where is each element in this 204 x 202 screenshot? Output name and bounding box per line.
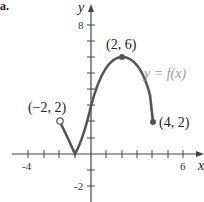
part-label: a. [0, 0, 9, 13]
function-curve [60, 57, 153, 154]
function-graph: a. -4 6 8 -2 y x [0, 0, 204, 202]
y-axis-label: y [76, 0, 85, 15]
y-axis-arrow-icon [88, 4, 94, 12]
point-label-4-2: (4, 2) [159, 115, 190, 131]
closed-endpoint-marker [150, 119, 156, 125]
open-endpoint-marker [57, 118, 63, 124]
y-tick-label-neg2: -2 [74, 180, 83, 192]
max-point-marker [119, 54, 125, 60]
x-tick-label-6: 6 [180, 160, 186, 172]
point-label-2-6: (2, 6) [106, 37, 137, 53]
x-axis-arrow-icon [196, 151, 204, 157]
point-label-neg2-2: (−2, 2) [28, 100, 67, 116]
x-axis-label: x [197, 158, 204, 173]
y-tick-label-8: 8 [78, 19, 84, 31]
x-tick-label-neg4: -4 [22, 160, 32, 172]
function-label: y = f(x) [142, 66, 186, 82]
